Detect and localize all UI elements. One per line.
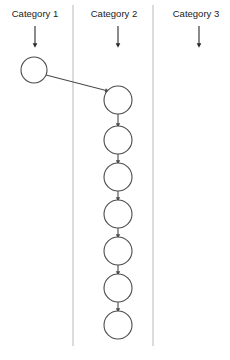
node-n4[interactable] (104, 163, 132, 191)
lane-header-label-2: Category 2 (91, 8, 137, 19)
node-n6[interactable] (104, 237, 132, 265)
node-n1[interactable] (21, 57, 47, 83)
category-swimlane-diagram: Category 1Category 2Category 3 (0, 0, 230, 360)
node-n3[interactable] (104, 126, 132, 154)
lane-header-label-1: Category 1 (12, 8, 58, 19)
node-n2[interactable] (104, 86, 132, 114)
node-n8[interactable] (104, 311, 132, 339)
node-n5[interactable] (104, 200, 132, 228)
node-circles (21, 57, 132, 339)
lane-header-label-3: Category 3 (173, 8, 219, 19)
diagram-canvas: Category 1Category 2Category 3 (0, 0, 230, 360)
node-connections (46, 75, 118, 311)
lane-direction-arrows (35, 26, 199, 46)
node-n7[interactable] (104, 274, 132, 302)
lane-headers: Category 1Category 2Category 3 (12, 8, 219, 19)
edge-n1-to-n2 (46, 75, 108, 91)
